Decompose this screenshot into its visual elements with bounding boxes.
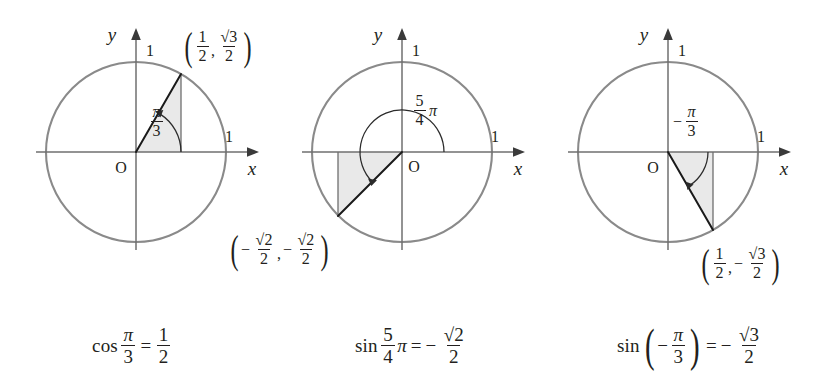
equation-1-result-denominator: 2 xyxy=(157,345,171,366)
equation-2-function: sin xyxy=(355,335,380,357)
panel-3-point-x-numerator: 1 xyxy=(714,246,726,263)
panel-2-origin-label: O xyxy=(408,158,420,175)
panel-1-angle-denominator: 3 xyxy=(151,121,163,139)
panel-1-y-tick-label: 1 xyxy=(146,42,154,59)
panel-2-angle-label: 5 4 π xyxy=(412,93,437,129)
panel-2-point-close-paren: ) xyxy=(320,239,328,261)
panel-1-point-open-paren: ( xyxy=(184,36,192,58)
equation-3-equals: = xyxy=(702,335,721,357)
panel-3-y-axis-label: y xyxy=(638,24,649,45)
panel-2-point-x-denominator: 2 xyxy=(258,249,270,267)
equation-1-equals: = xyxy=(136,335,155,357)
panel-3-point-y-sign: − xyxy=(734,256,745,272)
equation-2-result-fraction: √2 2 xyxy=(442,325,466,367)
panel-1-point-y-denominator: 2 xyxy=(223,46,235,64)
panel-2-angle-fraction: 5 4 xyxy=(414,93,426,129)
equation-1-result-fraction: 1 2 xyxy=(157,325,171,367)
equation-3-argument-fraction: π 3 xyxy=(672,325,686,367)
panel-2-point-y-sign: − xyxy=(283,242,294,258)
equation-2-result-numerator: √2 xyxy=(442,325,466,345)
equation-3-argument-denominator: 3 xyxy=(672,345,686,366)
panel-1-point-close-paren: ) xyxy=(243,36,251,58)
panel-1-angle-numerator: π xyxy=(151,104,163,121)
equation-2: sin 5 4 π = − √2 2 xyxy=(355,325,467,367)
equation-3-result-sign: − xyxy=(721,335,736,357)
panel-2-x-axis-arrowhead xyxy=(513,147,525,157)
panel-2-angle-denominator: 4 xyxy=(414,110,426,128)
equation-1-argument-numerator: π xyxy=(121,325,135,345)
panel-1-y-axis-arrowhead xyxy=(131,28,141,40)
panel-2-point-y-denominator: 2 xyxy=(300,249,312,267)
equation-3-result-numerator: √3 xyxy=(737,325,761,345)
panel-3-point-label: ( 1 2 , − √3 2 ) xyxy=(699,246,782,282)
equation-3-open-paren: ( xyxy=(645,333,655,359)
equation-1-function: cos xyxy=(92,335,120,357)
panel-2-point-x-sign: − xyxy=(241,242,252,258)
panel-2-angle-pi-symbol: π xyxy=(427,103,437,119)
panel-2-y-axis-arrowhead xyxy=(397,28,407,40)
panel-3-point-open-paren: ( xyxy=(701,253,709,275)
equation-2-argument-denominator: 4 xyxy=(381,345,395,366)
panel-3-angle-fraction: π 3 xyxy=(686,104,698,140)
panel-3-angle-numerator: π xyxy=(686,104,698,121)
panel-3-x-tick-label: 1 xyxy=(757,128,765,145)
equation-1-argument-denominator: 3 xyxy=(121,345,135,366)
panel-2-point-x-numerator: √2 xyxy=(254,232,275,249)
panel-2-angle-numerator: 5 xyxy=(414,93,426,110)
panel-3-point-x-fraction: 1 2 xyxy=(714,246,726,282)
panel-3-point-y-denominator: 2 xyxy=(751,263,763,281)
panel-3-point-x-denominator: 2 xyxy=(714,263,726,281)
panel-2-x-axis-label: x xyxy=(513,158,523,179)
panel-2-x-tick-label: 1 xyxy=(491,128,499,145)
panel-3-angle-label: − π 3 xyxy=(673,104,699,140)
equation-2-argument-numerator: 5 xyxy=(381,325,395,345)
equation-2-argument-pi-symbol: π xyxy=(396,335,407,357)
panel-3-angle-sign: − xyxy=(673,114,684,130)
panel-2-point-x-fraction: √2 2 xyxy=(254,232,275,268)
panel-1-angle-label: π 3 xyxy=(149,104,164,140)
panel-3-y-axis-arrowhead xyxy=(663,28,673,40)
equation-3: sin ( − π 3 ) = − √3 2 xyxy=(617,325,762,367)
equation-2-result-denominator: 2 xyxy=(447,345,461,366)
panel-1-y-axis-label: y xyxy=(106,24,117,45)
panel-2-point-y-fraction: √2 2 xyxy=(295,232,316,268)
panel-3-angle-denominator: 3 xyxy=(686,121,698,139)
panel-1-point-comma: , xyxy=(210,43,217,59)
equation-3-argument-sign: − xyxy=(657,335,670,357)
equation-3-argument-numerator: π xyxy=(672,325,686,345)
panel-2-y-tick-label: 1 xyxy=(412,42,420,59)
panel-2-point-label: ( − √2 2 , − √2 2 ) xyxy=(228,232,331,268)
panel-1-point-label: ( 1 2 , √3 2 ) xyxy=(182,29,254,65)
panel-3-x-axis-arrowhead xyxy=(779,147,791,157)
panel-3-y-tick-label: 1 xyxy=(678,42,686,59)
equation-1: cos π 3 = 1 2 xyxy=(92,325,172,367)
panel-1-x-axis-arrowhead xyxy=(247,147,259,157)
equation-3-close-paren: ) xyxy=(689,333,699,359)
equation-1-result-numerator: 1 xyxy=(157,325,171,345)
panel-1-angle-fraction: π 3 xyxy=(151,104,163,140)
panel-1-point-x-numerator: 1 xyxy=(197,29,209,46)
equation-1-argument-fraction: π 3 xyxy=(121,325,135,367)
panel-2-point-comma: , xyxy=(276,246,283,262)
equation-2-equals: = xyxy=(407,335,426,357)
panel-1-point-y-fraction: √3 2 xyxy=(219,29,240,65)
panel-1-x-tick-label: 1 xyxy=(225,128,233,145)
panel-3-x-axis-label: x xyxy=(779,158,789,179)
panel-3-point-y-numerator: √3 xyxy=(747,246,768,263)
panel-1-point-y-numerator: √3 xyxy=(219,29,240,46)
equation-3-result-fraction: √3 2 xyxy=(737,325,761,367)
panel-3-point-y-fraction: √3 2 xyxy=(747,246,768,282)
equation-3-function: sin xyxy=(617,335,642,357)
equation-2-argument-fraction: 5 4 xyxy=(381,325,395,367)
panel-1-x-axis-label: x xyxy=(247,158,257,179)
equation-2-result-sign: − xyxy=(426,335,441,357)
panel-3-origin-label: O xyxy=(647,159,659,176)
equation-3-result-denominator: 2 xyxy=(742,345,756,366)
panel-1-point-x-denominator: 2 xyxy=(197,46,209,64)
panel-1-origin-label: O xyxy=(115,159,127,176)
panel-2-y-axis-label: y xyxy=(372,24,383,45)
panel-2-point-y-numerator: √2 xyxy=(295,232,316,249)
panel-2-point-open-paren: ( xyxy=(230,239,238,261)
panel-1-point-x-fraction: 1 2 xyxy=(197,29,209,65)
panel-3-point-comma: , xyxy=(727,260,734,276)
